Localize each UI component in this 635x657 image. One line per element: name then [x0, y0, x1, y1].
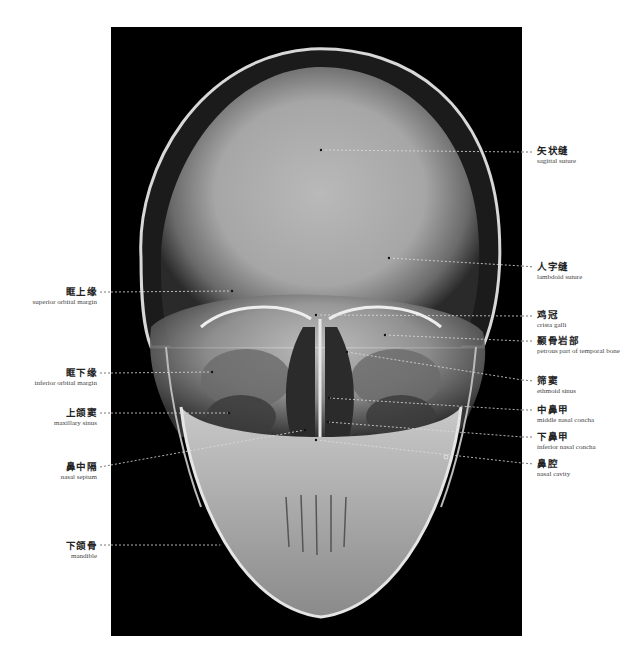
label-en: mandible [66, 553, 98, 560]
label-zh: 鸡冠 [537, 310, 566, 320]
label-crista-galli: 鸡冠 crista galli [537, 310, 566, 329]
label-zh: 人字缝 [537, 262, 582, 272]
label-inferior-nasal-concha: 下鼻甲 inferior nasal concha [537, 432, 596, 451]
label-mandible: 下颌骨 mandible [66, 541, 98, 560]
label-en: crista galli [537, 322, 566, 329]
label-maxillary-sinus: 上颌窦 maxillary sinus [54, 408, 97, 427]
label-en: inferior orbital margin [35, 380, 97, 387]
label-en: ethmoid sinus [537, 388, 576, 395]
label-lambdoid-suture: 人字缝 lambdoid suture [537, 262, 582, 281]
label-inferior-orbital-margin: 眶下缘 inferior orbital margin [35, 368, 97, 387]
label-zh: 下颌骨 [66, 541, 98, 551]
skull-xray-illustration [111, 27, 522, 636]
label-zh: 颞骨岩部 [537, 336, 627, 346]
label-zh: 中鼻甲 [537, 405, 594, 415]
label-en: superior orbital margin [33, 299, 97, 306]
label-en: nasal cavity [537, 471, 570, 478]
label-en: petrous part of temporal bone [537, 348, 627, 355]
label-en: sagittal suture [537, 158, 576, 165]
label-zh: 眶下缘 [35, 368, 97, 378]
label-middle-nasal-concha: 中鼻甲 middle nasal concha [537, 405, 594, 424]
label-petrous-part: 颞骨岩部 petrous part of temporal bone [537, 336, 627, 355]
label-sagittal-suture: 矢状缝 sagittal suture [537, 146, 576, 165]
label-zh: 鼻腔 [537, 459, 570, 469]
label-zh: 矢状缝 [537, 146, 576, 156]
label-en: inferior nasal concha [537, 444, 596, 451]
label-nasal-septum: 鼻中隔 nasal septum [61, 462, 97, 481]
label-zh: 上颌窦 [54, 408, 97, 418]
label-ethmoid-sinus: 筛窦 ethmoid sinus [537, 376, 576, 395]
label-en: maxillary sinus [54, 420, 97, 427]
label-nasal-cavity: 鼻腔 nasal cavity [537, 459, 570, 478]
label-en: middle nasal concha [537, 417, 594, 424]
skull-xray-image [111, 27, 522, 636]
label-en: nasal septum [61, 474, 97, 481]
label-en: lambdoid suture [537, 274, 582, 281]
label-zh: 鼻中隔 [61, 462, 97, 472]
label-zh: 眶上缘 [33, 287, 97, 297]
label-superior-orbital-margin: 眶上缘 superior orbital margin [33, 287, 97, 306]
label-zh: 筛窦 [537, 376, 576, 386]
label-zh: 下鼻甲 [537, 432, 596, 442]
